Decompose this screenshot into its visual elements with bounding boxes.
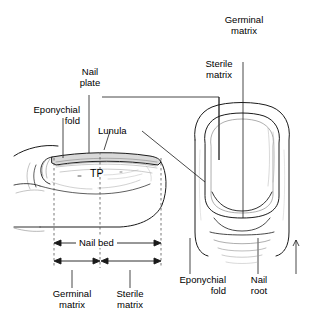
dimension-matrix-segments [54,258,161,264]
nail-anatomy-figure: Nail plate Eponychial fold Lunula TP Ger… [0,0,311,328]
label-sterile-matrix-right: Sterile matrix [192,58,246,80]
leader-lines-right [219,62,243,218]
reference-dashed-lines [54,152,161,268]
label-eponychial-fold-bottom: Eponychial fold [152,274,226,296]
label-nail-plate: Nail plate [62,66,118,88]
label-nail-bed: Nail bed [76,237,117,248]
label-nail-root: Nail root [242,274,276,296]
leader-lines-left [63,95,219,182]
label-germinal-matrix-bottom: Germinal matrix [40,288,104,310]
label-eponychial-fold-left: Eponychial fold [2,104,80,126]
left-panel-drawing [14,145,166,231]
right-panel-drawing [195,103,290,264]
label-germinal-matrix-right: Germinal matrix [215,14,273,36]
label-lunula: Lunula [98,125,127,136]
leader-nail-root-arrow [293,240,299,274]
label-sterile-matrix-bottom: Sterile matrix [100,288,160,310]
label-tp: TP [90,168,103,179]
